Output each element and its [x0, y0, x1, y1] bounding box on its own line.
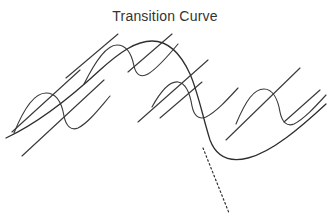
diagonal-line-left-short — [22, 80, 104, 156]
diagonal-line-far-right — [284, 90, 320, 122]
diagonal-line-centre-lower — [138, 60, 208, 122]
wiggle-curve-mid — [84, 44, 178, 84]
diagonal-line-right — [226, 68, 300, 140]
wiggle-curve-right-outer — [236, 89, 326, 125]
figure-canvas: Transition Curve — [0, 0, 330, 223]
wiggle-curve-left — [14, 93, 110, 133]
diagonal-line-lower-left — [12, 70, 80, 132]
transition-curve-figure — [0, 0, 330, 223]
main-transition-curve — [6, 41, 326, 160]
diagonal-line-upper-left — [66, 34, 118, 78]
